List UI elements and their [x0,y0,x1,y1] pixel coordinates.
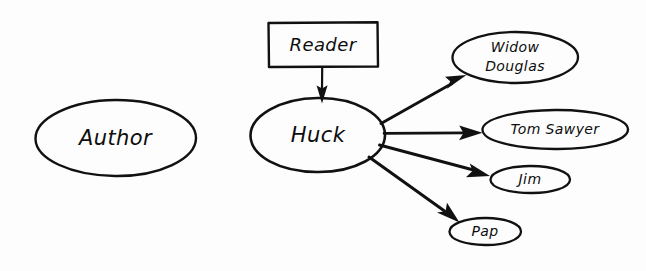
node-huck[interactable]: Huck [250,98,385,172]
node-label-widow-douglas-line2: Douglas [485,58,545,74]
node-tom-sawyer[interactable]: Tom Sawyer [482,110,628,149]
edge-huck-to-jim-line [380,145,474,170]
edge-huck-to-pap[interactable] [369,157,460,223]
edge-huck-to-widow-douglas-arrowhead [445,75,467,89]
diagram-canvas: Author Reader [0,0,646,271]
node-label-author: Author [77,126,153,150]
node-jim[interactable]: Jim [490,166,570,193]
edge-huck-to-widow-douglas[interactable] [381,75,467,124]
node-label-widow-douglas-line1: Widow [491,39,540,55]
edge-huck-to-widow-douglas-line [381,84,452,124]
node-pap[interactable]: Pap [449,218,521,245]
node-reader[interactable]: Reader [269,22,379,67]
diagram-svg: Author Reader [0,0,646,271]
node-author[interactable]: Author [35,100,196,176]
edge-huck-to-jim[interactable] [380,145,491,177]
node-label-reader: Reader [290,34,358,55]
node-label-tom-sawyer: Tom Sawyer [510,121,600,137]
edge-huck-to-tom-sawyer-line [384,133,465,134]
node-label-huck: Huck [291,123,346,147]
node-label-jim: Jim [516,171,542,187]
edge-huck-to-pap-line [369,157,445,211]
edge-huck-to-tom-sawyer[interactable] [384,126,483,141]
node-label-pap: Pap [471,223,498,239]
node-widow-douglas[interactable]: Widow Douglas [452,32,578,83]
edge-huck-to-pap-arrowhead [437,203,460,223]
